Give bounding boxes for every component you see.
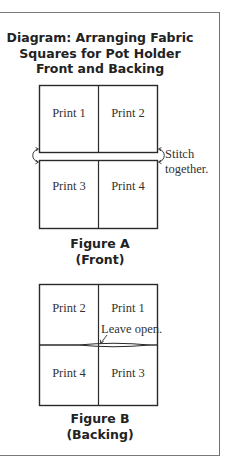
figure-b-backing: Print 2 Print 1 Print 4 Print 3 Leave op… [40, 285, 163, 406]
diagram-canvas: Print 1 Print 2 Print 3 Print 4 Stitch t… [0, 0, 230, 470]
figure-a-cell-3: Print 3 [52, 179, 86, 193]
opening-bottom-edge [78, 345, 150, 347]
figure-a-caption-line-2: (Front) [0, 252, 200, 268]
figure-a-caption: Figure A (Front) [0, 236, 200, 268]
figure-b-caption-line-2: (Backing) [0, 427, 200, 443]
figure-b-cell-2: Print 1 [111, 301, 145, 315]
figure-a-front: Print 1 Print 2 Print 3 Print 4 Stitch t… [33, 86, 209, 229]
figure-a-caption-line-1: Figure A [0, 236, 200, 252]
figure-a-cell-1: Print 1 [52, 106, 86, 120]
figure-b-caption: Figure B (Backing) [0, 411, 200, 443]
figure-b-caption-line-1: Figure B [0, 411, 200, 427]
opening-top-edge [78, 343, 150, 345]
stitch-arrow-left-icon [33, 149, 38, 162]
leave-open-arrow-icon [101, 335, 107, 343]
figure-a-cell-2: Print 2 [111, 106, 145, 120]
figure-b-cell-3: Print 4 [52, 366, 86, 380]
stitch-note-line-2: together. [165, 162, 208, 176]
leave-open-note: Leave open. [101, 322, 162, 336]
figure-b-cell-4: Print 3 [111, 366, 145, 380]
stitch-arrow-right-icon [159, 149, 164, 162]
figure-b-cell-1: Print 2 [52, 301, 86, 315]
stitch-note-line-1: Stitch [165, 147, 195, 161]
figure-a-cell-4: Print 4 [111, 179, 145, 193]
